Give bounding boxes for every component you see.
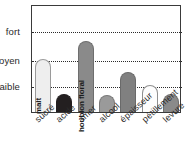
y-tick-label-fort: fort: [0, 27, 20, 36]
plot-area: fortmoyenfaible malthoublon floral: [31, 5, 181, 113]
gridline-faible: [32, 87, 182, 88]
gridline-fort: [32, 32, 182, 33]
y-tick-label-moyen: moyen: [0, 56, 20, 65]
bar-amer: houblon floral: [78, 41, 94, 112]
gridline-moyen: [32, 61, 182, 62]
y-tick-label-faible: faible: [0, 82, 20, 91]
x-axis-labels: sucréacideameralcoolépaisseurpétillement…: [0, 113, 188, 155]
beer-profile-bar-chart: fortmoyenfaible malthoublon floral sucré…: [0, 0, 188, 155]
